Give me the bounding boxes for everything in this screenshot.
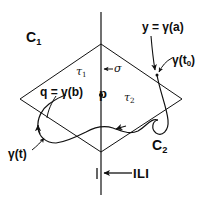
region-label-c1: C1 bbox=[26, 30, 41, 44]
gamma-wave-segment bbox=[56, 120, 158, 143]
point-y-label: y = γ(a) bbox=[142, 21, 184, 33]
tau-1-label: τ1 bbox=[76, 66, 87, 77]
gamma-t-leader-arrow bbox=[32, 138, 44, 150]
gamma-t0-leader-arrow bbox=[159, 58, 172, 72]
point-q-label: q = γ(b) bbox=[40, 86, 83, 98]
gamma-left-arrowhead bbox=[38, 125, 40, 134]
line-L-label: ILI bbox=[133, 167, 149, 180]
point-p-label: p bbox=[99, 87, 107, 100]
gamma-wave-arrowhead bbox=[116, 126, 126, 129]
tau-2-label: τ2 bbox=[124, 92, 135, 103]
gamma-t0-label: γ(t0) bbox=[172, 54, 195, 66]
figure-canvas: C1 C2 τ1 τ2 σ p q = γ(b) y = γ(a) γ(t0) … bbox=[0, 0, 218, 201]
sigma-label: σ bbox=[114, 63, 122, 74]
gamma-a-arrow bbox=[151, 36, 155, 70]
q-leader-arc bbox=[47, 96, 56, 118]
gamma-t-label: γ(t) bbox=[8, 148, 27, 160]
region-label-c2: C2 bbox=[152, 138, 167, 152]
